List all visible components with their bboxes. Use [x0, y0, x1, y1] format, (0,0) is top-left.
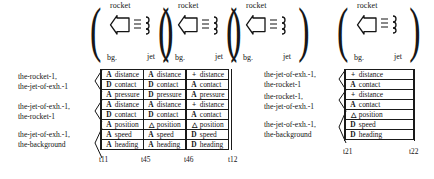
rocket-arrow-icon: [356, 15, 378, 35]
left-t11-cell-distance: A distance: [102, 70, 144, 80]
tick-t46: t46: [184, 155, 193, 164]
cell-operator: A: [349, 81, 357, 89]
cell-operator: +: [349, 91, 357, 99]
table-row: D speed: [187, 130, 229, 140]
table-row: △ position: [144, 120, 186, 130]
left-t11-cell-position: A position: [102, 120, 144, 130]
cell-feature-name: pressure: [200, 90, 225, 99]
jet-label: jet: [147, 52, 155, 61]
cell-operator: A: [105, 131, 113, 139]
cell-feature-name: distance: [115, 100, 139, 109]
table-row: A speed: [144, 130, 186, 140]
cell-feature-name: speed: [157, 130, 174, 139]
table-row: A pressure: [102, 90, 144, 100]
tick-t21: t21: [343, 147, 352, 156]
left-paren: (: [226, 0, 237, 59]
cell-operator: A: [147, 71, 155, 79]
cell-feature-name: speed: [115, 130, 132, 139]
bg-label: bg.: [354, 53, 364, 62]
cell-feature-name: speed: [200, 130, 217, 139]
table-row: △ position: [346, 110, 414, 120]
left-matrix-column-t46: + distanceA contactA pressure+ distanceA…: [186, 69, 229, 150]
cell-feature-name: heading: [200, 140, 223, 149]
bg-label: bg.: [243, 53, 253, 62]
right-row-label-2-line2: the-jet-of-exh.-1: [264, 102, 314, 112]
cell-operator: D: [147, 111, 155, 119]
rocket-arrow-icon: [177, 15, 199, 35]
right-t21-cell-contact: A contact: [346, 80, 414, 90]
exhaust-lines-icon: [269, 13, 291, 37]
icon-group-rocket-1: ( ) rocket bg. jet: [98, 0, 166, 62]
table-row: A contact: [187, 110, 229, 120]
table-row: + distance: [346, 70, 414, 80]
cell-feature-name: heading: [157, 140, 180, 149]
icon-group-rocket-3: ( ) rocket bg. jet: [234, 0, 302, 62]
cell-operator: D: [147, 81, 155, 89]
right-row-label-1-line2: the-rocket-1: [264, 80, 316, 90]
cell-feature-name: contact: [359, 80, 380, 89]
cell-operator: D: [190, 141, 198, 149]
right-matrix-left-rule: [344, 69, 345, 141]
exhaust-lines-icon: [201, 13, 223, 37]
rocket-label: rocket: [110, 1, 131, 10]
cell-operator: A: [349, 101, 357, 109]
cell-operator: A: [105, 71, 113, 79]
right-t21-cell-distance: + distance: [346, 70, 414, 80]
cell-feature-name: pressure: [115, 90, 140, 99]
rocket-label: rocket: [178, 1, 199, 10]
jet-label: jet: [215, 52, 223, 61]
figure-canvas: ( ) rocket bg. jet ( ) rocket: [0, 0, 434, 179]
cell-operator: △: [349, 111, 357, 119]
table-row: A distance: [144, 100, 186, 110]
cell-feature-name: speed: [359, 120, 376, 129]
tick-t22: t22: [409, 147, 418, 156]
tick-t11: t11: [99, 155, 108, 164]
right-paren: ): [410, 0, 421, 59]
jet-label: jet: [283, 52, 291, 61]
right-row-label-1-line1: the-jet-of-exh.-1,: [264, 70, 316, 80]
cell-feature-name: heading: [359, 130, 382, 139]
left-t11-cell-speed: A speed: [102, 130, 144, 140]
left-t46-cell-speed: D speed: [187, 130, 229, 140]
table-row: D contact: [102, 110, 144, 120]
cell-operator: A: [190, 111, 198, 119]
cell-feature-name: contact: [200, 110, 221, 119]
left-t46-cell-contact: A contact: [187, 80, 229, 90]
left-matrix-right-rule: [231, 69, 232, 150]
table-row: A position: [102, 120, 144, 130]
cell-feature-name: position: [200, 120, 224, 129]
rocket-label: rocket: [246, 1, 267, 10]
left-row-label-1-line2: the-jet-of-exh.-1: [18, 82, 68, 92]
cell-operator: D: [349, 131, 357, 139]
table-row: A pressure: [187, 90, 229, 100]
left-t45-cell-distance: A distance: [144, 70, 186, 80]
cell-operator: D: [147, 91, 155, 99]
left-t46-cell-position: △ position: [187, 120, 229, 130]
right-t21-cell-position: △ position: [346, 110, 414, 120]
table-row: A contact: [346, 100, 414, 110]
bg-label: bg.: [107, 53, 117, 62]
left-paren: (: [337, 0, 348, 59]
left-t46-cell-heading: D heading: [187, 140, 229, 150]
cell-feature-name: distance: [359, 70, 383, 79]
table-row: A heading: [144, 140, 186, 150]
table-row: D contact: [102, 80, 144, 90]
cell-feature-name: distance: [200, 70, 224, 79]
right-paren: ): [299, 0, 310, 59]
left-t45-cell-speed: A speed: [144, 130, 186, 140]
cell-feature-name: distance: [157, 70, 181, 79]
cell-feature-name: contact: [157, 80, 178, 89]
cell-operator: A: [190, 81, 198, 89]
cell-operator: A: [105, 141, 113, 149]
table-row: D speed: [346, 120, 414, 130]
cell-feature-name: contact: [115, 110, 136, 119]
table-row: D pressure: [144, 90, 186, 100]
right-row-label-1: the-jet-of-exh.-1, the-rocket-1: [264, 70, 316, 89]
tick-t45: t45: [141, 155, 150, 164]
left-t45-cell-pressure: D pressure: [144, 90, 186, 100]
cell-operator: △: [190, 121, 198, 129]
cell-feature-name: position: [115, 120, 139, 129]
left-paren: (: [90, 0, 101, 59]
cell-feature-name: contact: [157, 110, 178, 119]
jet-label: jet: [394, 52, 402, 61]
